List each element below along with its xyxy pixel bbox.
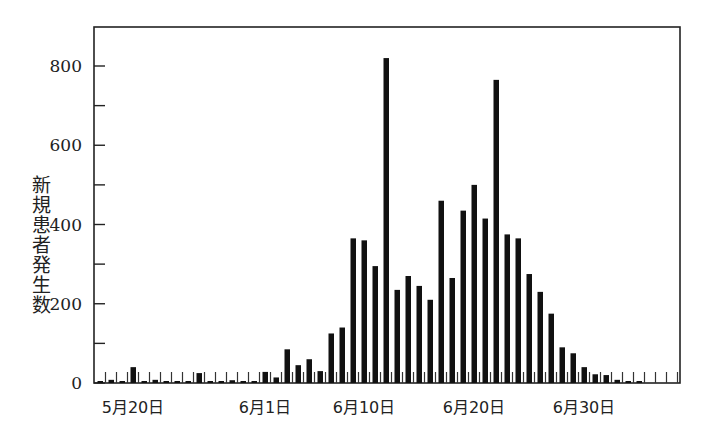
bar <box>483 219 489 383</box>
y-axis-label-container: 新規患者発生数 <box>26 150 56 340</box>
bar <box>208 381 214 383</box>
bar <box>285 349 291 383</box>
bars <box>98 58 643 383</box>
bar <box>296 365 302 383</box>
bar <box>307 359 313 383</box>
bar <box>329 333 335 383</box>
bar <box>637 381 643 383</box>
bar <box>98 381 104 383</box>
bar <box>615 380 621 383</box>
bar <box>109 380 115 383</box>
bar <box>417 286 423 383</box>
bar <box>406 276 412 383</box>
bar <box>604 375 610 383</box>
bar <box>527 274 533 383</box>
bar <box>505 234 511 383</box>
bar <box>197 373 203 383</box>
x-axis: 5月20日6月1日6月10日6月20日6月30日 <box>102 372 678 417</box>
bar <box>142 381 148 383</box>
bar <box>175 381 181 383</box>
bar <box>384 58 390 383</box>
bar <box>241 381 247 383</box>
bar <box>494 80 500 383</box>
bar <box>351 238 357 383</box>
bar <box>571 353 577 383</box>
bar <box>582 367 588 383</box>
bar <box>439 201 445 383</box>
bar <box>153 380 159 383</box>
bar <box>263 372 269 383</box>
y-axis-label: 新規患者発生数 <box>28 175 55 315</box>
bar <box>472 185 478 383</box>
bar <box>516 238 522 383</box>
bar <box>362 240 368 383</box>
bar <box>164 381 170 383</box>
bar <box>120 381 126 383</box>
x-tick-label: 5月20日 <box>102 398 165 417</box>
bar <box>461 211 467 383</box>
x-tick-label: 6月30日 <box>553 398 616 417</box>
bar <box>252 381 258 383</box>
x-tick-label: 6月10日 <box>333 398 396 417</box>
bar <box>274 377 280 383</box>
bar <box>318 371 324 383</box>
x-tick-label: 6月20日 <box>443 398 506 417</box>
x-tick-label: 6月1日 <box>239 398 291 417</box>
bar <box>560 347 566 383</box>
y-tick-label: 800 <box>50 56 82 76</box>
bar <box>593 374 599 383</box>
bar <box>450 278 456 383</box>
bar <box>428 300 434 383</box>
bar <box>538 292 544 383</box>
bar <box>373 266 379 383</box>
bar-chart: 0200400600800 5月20日6月1日6月10日6月20日6月30日 <box>0 0 703 441</box>
y-axis: 0200400600800 <box>50 56 105 393</box>
bar <box>340 328 346 383</box>
bar <box>186 381 192 383</box>
bar <box>230 380 236 383</box>
bar <box>219 381 225 383</box>
bar <box>626 381 632 383</box>
bar <box>395 290 401 383</box>
y-tick-label: 0 <box>71 373 82 393</box>
bar <box>549 314 555 383</box>
bar <box>131 367 137 383</box>
